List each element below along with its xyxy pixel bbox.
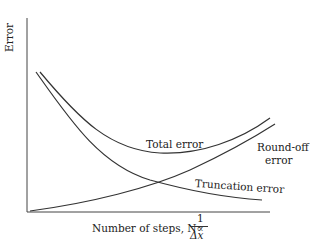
error-diagram: Error Total error Round-off error Trunca… (0, 0, 317, 249)
y-axis-label: Error (3, 23, 15, 52)
total-error-label: Total error (146, 138, 203, 150)
frac-numerator: 1 (197, 212, 204, 224)
x-axis-label: Number of steps, N∝ (92, 222, 204, 234)
roundoff-label-1: Round-off (257, 141, 309, 153)
roundoff-label-2: error (265, 154, 293, 166)
diagram-svg (0, 0, 317, 249)
frac-denominator: Δx (190, 229, 204, 241)
frac-bar (190, 226, 208, 227)
